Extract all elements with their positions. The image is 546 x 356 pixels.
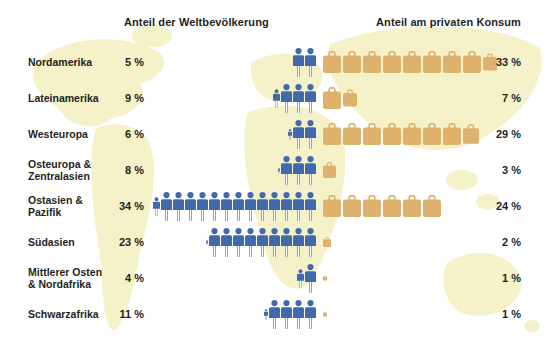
person-icon xyxy=(305,264,316,293)
person-icon xyxy=(305,84,316,113)
infographic-canvas: Anteil der Weltbevölkerung Anteil am pri… xyxy=(0,0,546,356)
person-icon xyxy=(269,300,280,329)
person-icon xyxy=(281,300,292,329)
person-icon xyxy=(293,228,304,257)
person-icon-partial xyxy=(288,120,292,149)
suitcase-icon xyxy=(403,123,421,145)
consumption-value: 1 % xyxy=(502,272,521,284)
suitcase-icon xyxy=(323,195,341,217)
population-value: 23 % xyxy=(114,236,144,248)
person-icon xyxy=(209,228,220,257)
chart-content: Anteil der Weltbevölkerung Anteil am pri… xyxy=(0,0,546,356)
region-label: Nordamerika xyxy=(28,56,114,68)
person-icon xyxy=(293,48,304,77)
region-label: Mittlerer Osten & Nordafrika xyxy=(28,266,114,290)
population-pictogram xyxy=(144,48,316,77)
suitcase-icon xyxy=(443,123,461,145)
person-icon xyxy=(197,192,208,221)
population-pictogram xyxy=(144,156,316,185)
consumption-pictogram: 2 % xyxy=(323,224,521,260)
person-icon xyxy=(305,120,316,149)
suitcase-icon-partial xyxy=(343,87,357,109)
region-label: Westeuropa xyxy=(28,128,114,140)
consumption-value: 2 % xyxy=(502,236,521,248)
population-pictogram xyxy=(144,192,316,221)
population-value: 4 % xyxy=(114,272,144,284)
suitcase-icon-partial xyxy=(323,159,336,181)
suitcase-icon-partial xyxy=(483,51,497,73)
consumption-pictogram: 3 % xyxy=(323,152,521,188)
suitcase-icon xyxy=(423,51,441,73)
consumption-pictogram: 24 % xyxy=(323,188,521,224)
region-row: Schwarzafrika11 %1 % xyxy=(0,296,546,332)
suitcase-icon xyxy=(383,51,401,73)
person-icon xyxy=(221,192,232,221)
person-icon xyxy=(293,300,304,329)
population-value: 34 % xyxy=(114,200,144,212)
person-icon xyxy=(305,300,316,329)
suitcase-icon xyxy=(323,51,341,73)
person-icon xyxy=(305,48,316,77)
person-icon xyxy=(161,192,172,221)
population-column-header: Anteil der Weltbevölkerung xyxy=(124,16,269,28)
population-value: 11 % xyxy=(114,308,144,320)
person-icon xyxy=(305,156,316,185)
person-icon xyxy=(209,192,220,221)
suitcase-icon xyxy=(443,51,461,73)
person-icon-partial xyxy=(278,156,280,185)
person-icon xyxy=(305,228,316,257)
population-pictogram xyxy=(144,120,316,149)
consumption-pictogram: 7 % xyxy=(323,80,521,116)
consumption-value: 29 % xyxy=(496,128,521,140)
consumption-column-header: Anteil am privaten Konsum xyxy=(376,16,521,28)
suitcase-icon xyxy=(363,123,381,145)
region-row: Ostasien & Pazifik34 %24 % xyxy=(0,188,546,224)
person-icon xyxy=(245,192,256,221)
suitcase-icon-partial xyxy=(323,231,331,253)
consumption-pictogram: 33 % xyxy=(323,44,521,80)
consumption-pictogram: 29 % xyxy=(323,116,521,152)
person-icon xyxy=(293,84,304,113)
region-label: Lateinamerika xyxy=(28,92,114,104)
person-icon-partial xyxy=(297,264,304,293)
person-icon xyxy=(245,228,256,257)
person-icon xyxy=(293,120,304,149)
person-icon xyxy=(281,84,292,113)
suitcase-icon xyxy=(423,195,441,217)
suitcase-icon xyxy=(323,123,341,145)
suitcase-icon xyxy=(403,195,421,217)
suitcase-icon xyxy=(403,51,421,73)
population-pictogram xyxy=(144,264,316,293)
suitcase-icon xyxy=(343,123,361,145)
person-icon xyxy=(269,228,280,257)
suitcase-icon xyxy=(343,195,361,217)
population-value: 9 % xyxy=(114,92,144,104)
person-icon xyxy=(281,228,292,257)
consumption-value: 24 % xyxy=(496,200,521,212)
region-row: Osteuropa & Zentralasien8 %3 % xyxy=(0,152,546,188)
person-icon-partial xyxy=(273,84,280,113)
rows: Nordamerika5 %33 %Lateinamerika9 %7 %Wes… xyxy=(0,44,546,332)
suitcase-icon xyxy=(383,195,401,217)
suitcase-icon xyxy=(363,51,381,73)
person-icon xyxy=(233,192,244,221)
region-label: Schwarzafrika xyxy=(28,308,114,320)
person-icon-partial xyxy=(206,228,208,257)
population-pictogram xyxy=(144,228,316,257)
suitcase-icon xyxy=(343,51,361,73)
person-icon xyxy=(293,156,304,185)
consumption-value: 33 % xyxy=(496,56,521,68)
consumption-value: 3 % xyxy=(502,164,521,176)
population-pictogram xyxy=(144,300,316,329)
region-row: Südasien23 %2 % xyxy=(0,224,546,260)
person-icon-partial xyxy=(264,300,268,329)
person-icon xyxy=(221,228,232,257)
region-label: Osteuropa & Zentralasien xyxy=(28,158,114,182)
population-pictogram xyxy=(144,84,316,113)
person-icon xyxy=(173,192,184,221)
person-icon xyxy=(269,192,280,221)
region-row: Westeuropa6 %29 % xyxy=(0,116,546,152)
region-row: Nordamerika5 %33 % xyxy=(0,44,546,80)
suitcase-icon xyxy=(363,195,381,217)
region-row: Lateinamerika9 %7 % xyxy=(0,80,546,116)
